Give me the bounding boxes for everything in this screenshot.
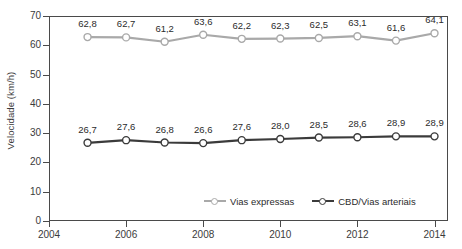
y-axis-tick (43, 133, 49, 134)
data-point-label: 62,3 (263, 20, 297, 31)
data-point-label: 26,7 (71, 124, 105, 135)
y-axis-tick (43, 192, 49, 193)
data-point-label: 62,7 (109, 18, 143, 29)
y-axis-tick (43, 16, 49, 17)
legend-label: CBD/Vias arteriais (338, 196, 415, 207)
legend-circle-icon (319, 198, 326, 205)
data-point-label: 28,6 (340, 118, 374, 129)
x-axis-tick (357, 221, 358, 227)
data-point-label: 28,9 (418, 117, 452, 128)
x-axis-tick-label: 2014 (415, 229, 455, 240)
x-axis-tick-label: 2006 (106, 229, 146, 240)
x-axis-tick-label: 2010 (260, 229, 300, 240)
x-axis-tick (280, 221, 281, 227)
legend-marker-icon (312, 197, 334, 206)
x-axis-tick (435, 221, 436, 227)
x-axis-tick-label: 2012 (337, 229, 377, 240)
x-axis-tick (203, 221, 204, 227)
legend-marker-icon (204, 197, 226, 206)
data-point-label: 63,6 (186, 16, 220, 27)
data-point-label: 27,6 (109, 121, 143, 132)
legend-circle-icon (211, 198, 218, 205)
data-point-label: 63,1 (340, 17, 374, 28)
data-point-label: 26,6 (186, 124, 220, 135)
data-point-label: 27,6 (225, 121, 259, 132)
y-axis-tick-label: 60 (16, 39, 41, 50)
y-axis-tick-label: 50 (16, 69, 41, 80)
chart-legend: Vias expressasCBD/Vias arteriais (204, 193, 416, 209)
data-point-label: 62,2 (225, 20, 259, 31)
x-axis-tick (126, 221, 127, 227)
data-point-label: 28,9 (379, 117, 413, 128)
y-axis-tick-label: 0 (16, 215, 41, 226)
legend-entry[interactable]: CBD/Vias arteriais (312, 196, 415, 207)
x-axis-tick-label: 2008 (183, 229, 223, 240)
data-point-label: 26,8 (148, 124, 182, 135)
y-axis-tick-label: 20 (16, 156, 41, 167)
data-point-label: 61,2 (148, 23, 182, 34)
y-axis-tick (43, 162, 49, 163)
x-axis-tick-label: 2004 (29, 229, 69, 240)
data-point-label: 28,0 (263, 120, 297, 131)
y-axis-tick (43, 45, 49, 46)
y-axis-tick (43, 104, 49, 105)
data-point-label: 64,1 (418, 14, 452, 25)
y-axis-title-text: Velocidade (km/h) (6, 72, 17, 150)
chart-screenshot: Velocidade (km/h) 010203040506070 200420… (0, 0, 462, 249)
y-axis-tick-label: 10 (16, 186, 41, 197)
legend-label: Vias expressas (230, 196, 294, 207)
y-axis-tick-label: 30 (16, 127, 41, 138)
y-axis-tick (43, 75, 49, 76)
y-axis-tick-label: 40 (16, 98, 41, 109)
y-axis-tick-label: 70 (16, 10, 41, 21)
data-point-label: 28,5 (302, 119, 336, 130)
data-point-label: 62,8 (71, 18, 105, 29)
data-point-label: 61,6 (379, 22, 413, 33)
legend-entry[interactable]: Vias expressas (204, 196, 294, 207)
data-point-label: 62,5 (302, 19, 336, 30)
x-axis-tick (49, 221, 50, 227)
